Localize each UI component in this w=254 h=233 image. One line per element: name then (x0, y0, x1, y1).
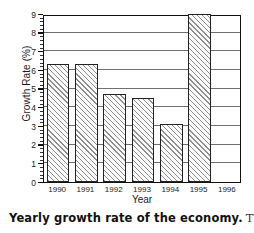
bar-1990 (47, 64, 70, 182)
bar-1991 (75, 64, 98, 182)
bar-1994 (160, 124, 183, 182)
y-tick-label: 0 (31, 179, 36, 188)
bar-1992 (103, 94, 126, 182)
y-axis-ticks: 0123456789 (33, 15, 43, 183)
y-axis-title: Growth Rate (%) (21, 19, 32, 149)
caption-body-text: This (246, 211, 254, 225)
y-tick-label: 8 (31, 29, 36, 38)
caption-bold-text: Yearly growth rate of the economy. (9, 211, 243, 225)
bar-chart-figure: Growth Rate (%) 0123456789 1990199119921… (0, 0, 254, 207)
bar-1993 (132, 98, 155, 182)
y-tick-label: 2 (31, 141, 36, 150)
bar-series (44, 16, 240, 182)
figure-caption: Yearly growth rate of the economy.This (9, 211, 249, 226)
bar-1995 (188, 14, 211, 182)
figure-page: Growth Rate (%) 0123456789 1990199119921… (0, 0, 254, 233)
plot-area (43, 15, 241, 183)
y-tick-label: 1 (31, 160, 36, 169)
y-tick-label: 5 (31, 85, 36, 94)
y-tick-label: 6 (31, 67, 36, 76)
y-tick-label: 7 (31, 48, 36, 57)
y-tick-label: 9 (31, 11, 36, 20)
y-tick-label: 4 (31, 104, 36, 113)
x-axis-title: Year (43, 194, 241, 205)
y-tick-label: 3 (31, 123, 36, 132)
